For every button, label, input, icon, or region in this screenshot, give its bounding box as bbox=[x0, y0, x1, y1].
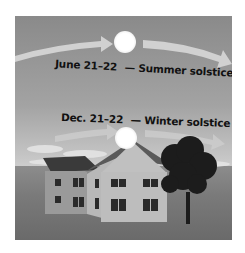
tree bbox=[161, 136, 217, 224]
house bbox=[43, 140, 173, 222]
solstice-illustration: June 21–22 — Summer solstice Dec. 21–22 … bbox=[15, 16, 232, 240]
summer-sun-icon bbox=[114, 31, 136, 53]
winter-date: Dec. 21–22 bbox=[61, 111, 124, 125]
winter-sun-icon bbox=[115, 127, 137, 149]
